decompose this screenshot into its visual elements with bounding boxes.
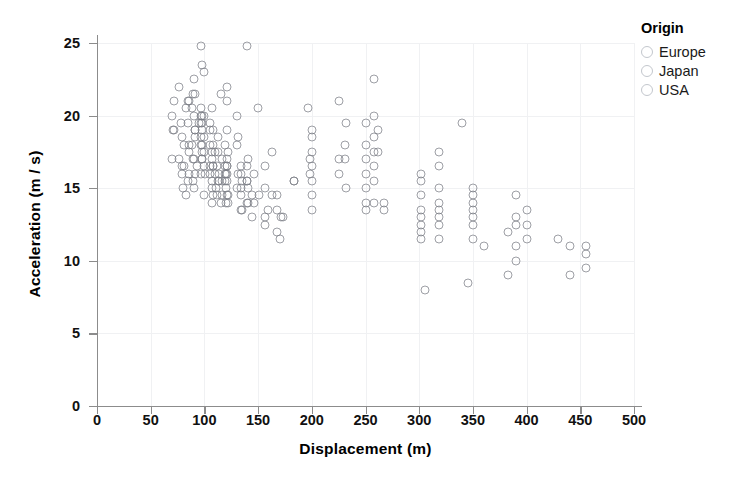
data-point xyxy=(479,242,488,251)
data-point xyxy=(458,118,467,127)
data-point xyxy=(417,191,426,200)
data-point xyxy=(361,140,370,149)
gridline-vertical xyxy=(151,43,152,406)
data-point xyxy=(214,133,223,142)
legend-entry[interactable]: USA xyxy=(641,80,741,99)
legend: Origin EuropeJapanUSA xyxy=(641,20,741,99)
data-point xyxy=(417,213,426,222)
data-point xyxy=(179,140,188,149)
x-axis-tick-label: 0 xyxy=(93,412,101,428)
y-axis-tick-labels: 0510152025 xyxy=(50,0,80,479)
chart-canvas: 050100150200250300350400450500 051015202… xyxy=(0,0,747,479)
data-point xyxy=(278,213,287,222)
y-axis-line xyxy=(97,35,98,407)
x-axis-tick-label: 100 xyxy=(192,412,216,428)
data-point xyxy=(361,118,370,127)
data-point xyxy=(307,205,316,214)
data-point xyxy=(370,176,379,185)
data-point xyxy=(207,104,216,113)
data-point xyxy=(168,155,177,164)
data-point xyxy=(342,184,351,193)
legend-entry-label: Japan xyxy=(659,63,699,79)
data-point xyxy=(504,227,513,236)
data-point xyxy=(184,176,193,185)
data-point xyxy=(342,118,351,127)
data-point xyxy=(361,205,370,214)
data-point xyxy=(334,97,343,106)
y-axis-tick-label: 20 xyxy=(64,108,80,124)
data-point xyxy=(581,249,590,258)
y-axis-tick xyxy=(89,43,97,44)
data-point xyxy=(190,169,199,178)
data-point xyxy=(249,169,258,178)
data-point xyxy=(260,184,269,193)
data-point xyxy=(200,68,209,77)
data-point xyxy=(197,41,206,50)
plot-area xyxy=(97,43,634,406)
data-point xyxy=(205,140,214,149)
data-point xyxy=(370,75,379,84)
y-axis-tick-label: 5 xyxy=(72,325,80,341)
data-point xyxy=(374,147,383,156)
legend-entry-label: Europe xyxy=(659,44,706,60)
data-point xyxy=(289,176,298,185)
data-point xyxy=(565,271,574,280)
data-point xyxy=(522,220,531,229)
data-point xyxy=(434,147,443,156)
data-point xyxy=(222,82,231,91)
data-point xyxy=(553,235,562,244)
data-point xyxy=(565,242,574,251)
data-point xyxy=(468,184,477,193)
data-point xyxy=(379,198,388,207)
data-point xyxy=(188,89,197,98)
data-point xyxy=(233,133,242,142)
data-point xyxy=(303,104,312,113)
gridline-vertical xyxy=(634,43,635,406)
gridline-horizontal xyxy=(97,333,634,334)
gridline-vertical xyxy=(258,43,259,406)
data-point xyxy=(307,176,316,185)
x-axis-tick-label: 250 xyxy=(353,412,377,428)
data-point xyxy=(224,191,233,200)
gridline-horizontal xyxy=(97,43,634,44)
data-point xyxy=(268,147,277,156)
data-point xyxy=(247,213,256,222)
data-point xyxy=(222,162,231,171)
data-point xyxy=(170,97,179,106)
gridline-horizontal xyxy=(97,261,634,262)
x-axis-tick-label: 350 xyxy=(461,412,485,428)
data-point xyxy=(232,111,241,120)
data-point xyxy=(260,162,269,171)
data-point xyxy=(420,285,429,294)
y-axis-tick xyxy=(89,261,97,262)
data-point xyxy=(216,89,225,98)
legend-entry[interactable]: Europe xyxy=(641,42,741,61)
y-axis-tick xyxy=(89,188,97,189)
data-point xyxy=(254,104,263,113)
data-point xyxy=(224,147,233,156)
data-point xyxy=(222,126,231,135)
data-point xyxy=(361,169,370,178)
data-point xyxy=(468,198,477,207)
x-axis-tick-label: 450 xyxy=(568,412,592,428)
y-axis-tick xyxy=(89,333,97,334)
x-axis-tick-label: 200 xyxy=(300,412,324,428)
data-point xyxy=(307,147,316,156)
legend-entry[interactable]: Japan xyxy=(641,61,741,80)
gridline-vertical xyxy=(580,43,581,406)
data-point xyxy=(504,271,513,280)
data-point xyxy=(511,242,520,251)
open-circle-icon xyxy=(641,65,653,77)
data-point xyxy=(263,205,272,214)
y-axis-tick-label: 25 xyxy=(64,35,80,51)
open-circle-icon xyxy=(641,84,653,96)
open-circle-icon xyxy=(641,46,653,58)
data-point xyxy=(370,198,379,207)
data-point xyxy=(434,184,443,193)
data-point xyxy=(468,235,477,244)
data-point xyxy=(307,162,316,171)
x-axis-tick-label: 500 xyxy=(622,412,646,428)
data-point xyxy=(205,118,214,127)
data-point xyxy=(236,205,245,214)
data-point xyxy=(268,191,277,200)
